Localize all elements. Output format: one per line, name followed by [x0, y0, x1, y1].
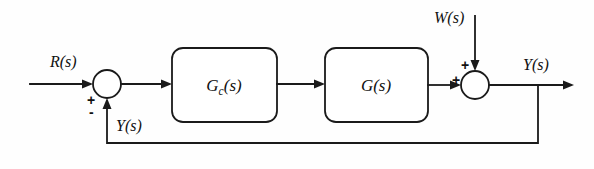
- reference-signal-label: R(s): [49, 53, 77, 71]
- plant-label-main: G: [361, 76, 373, 95]
- disturbance-summing-junction: [461, 71, 489, 99]
- output-signal-label: Y(s): [523, 56, 549, 74]
- disturbance-signal-label: W(s): [434, 9, 464, 27]
- arrowhead-feedback-into-error-junction: [103, 98, 112, 109]
- block-diagram-canvas: + - + + Gc(s) G(s) R(s) W(s) Y(s) Y(s): [0, 0, 594, 169]
- block-diagram-svg: + - + + Gc(s) G(s) R(s) W(s) Y(s) Y(s): [0, 0, 594, 169]
- sign-disturbance-plus: +: [461, 57, 469, 73]
- controller-label-tail: (s): [224, 76, 242, 95]
- arrowhead-disturbance-input: [471, 60, 480, 71]
- arrowhead-output: [563, 81, 574, 90]
- controller-block-label: Gc(s): [206, 76, 242, 97]
- arrowhead-plant-input: [314, 80, 325, 89]
- plant-block-label: G(s): [361, 76, 392, 95]
- sign-feedback-minus: -: [89, 104, 94, 120]
- arrowhead-controller-input: [161, 80, 172, 89]
- plant-label-tail: (s): [373, 76, 391, 95]
- sign-plant-plus: +: [452, 72, 460, 88]
- error-summing-junction: [93, 70, 121, 98]
- controller-label-main: G: [206, 76, 218, 95]
- arrowhead-reference-input: [82, 80, 93, 89]
- feedback-signal-label: Y(s): [116, 117, 142, 135]
